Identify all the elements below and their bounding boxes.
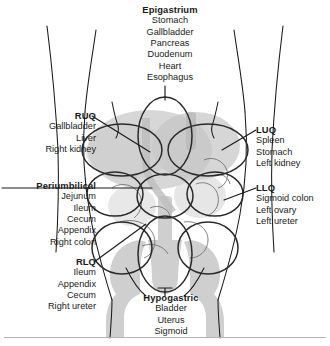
label-luq: LUQ Spleen Stomach Left kidney <box>256 124 330 169</box>
label-periumbilical-item: Jejunum <box>2 191 96 202</box>
label-rlq-item: Appendix <box>8 279 96 290</box>
label-periumbilical-heading: Periumbilical <box>2 180 96 191</box>
bottom-divider <box>4 337 326 338</box>
label-epigastrium-item: Duodenum <box>120 49 220 60</box>
label-rlq-item: Ileum <box>8 267 96 278</box>
label-epigastrium-item: Pancreas <box>120 38 220 49</box>
label-luq-item: Stomach <box>256 147 330 158</box>
abdominal-regions-figure: Epigastrium Stomach Gallbladder Pancreas… <box>0 0 330 346</box>
label-luq-heading: LUQ <box>256 124 330 135</box>
label-ruq-item: Liver <box>4 133 96 144</box>
label-ruq-heading: RUQ <box>4 110 96 121</box>
label-llq-item: Sigmoid colon <box>256 193 330 204</box>
label-ruq-item: Gallbladder <box>4 121 96 132</box>
label-epigastrium-item: Gallbladder <box>120 27 220 38</box>
label-epigastrium-heading: Epigastrium <box>120 4 220 15</box>
label-periumbilical-item: Ileum <box>2 203 96 214</box>
label-periumbilical-item: Cecum <box>2 214 96 225</box>
label-hypogastric-item: Bladder <box>118 303 224 314</box>
label-llq-item: Left ureter <box>256 216 330 227</box>
label-luq-item: Left kidney <box>256 158 330 169</box>
label-hypogastric-item: Sigmoid <box>118 326 224 337</box>
label-periumbilical: Periumbilical Jejunum Ileum Cecum Append… <box>2 180 96 248</box>
label-llq-heading: LLQ <box>256 182 330 193</box>
label-hypogastric: Hypogastric Bladder Uterus Sigmoid <box>118 292 224 337</box>
label-epigastrium-item: Esophagus <box>120 72 220 83</box>
label-hypogastric-heading: Hypogastric <box>118 292 224 303</box>
label-periumbilical-item: Appendix <box>2 225 96 236</box>
label-rlq: RLQ Ileum Appendix Cecum Right ureter <box>8 256 96 313</box>
label-ruq-item: Right kidney <box>4 144 96 155</box>
label-llq: LLQ Sigmoid colon Left ovary Left ureter <box>256 182 330 227</box>
label-periumbilical-item: Right colon <box>2 237 96 248</box>
label-epigastrium-item: Heart <box>120 61 220 72</box>
label-llq-item: Left ovary <box>256 205 330 216</box>
label-luq-item: Spleen <box>256 135 330 146</box>
label-ruq: RUQ Gallbladder Liver Right kidney <box>4 110 96 155</box>
label-rlq-heading: RLQ <box>8 256 96 267</box>
label-epigastrium-item: Stomach <box>120 15 220 26</box>
label-rlq-item: Right ureter <box>8 301 96 312</box>
label-rlq-item: Cecum <box>8 290 96 301</box>
leader-llq <box>224 188 256 200</box>
label-hypogastric-item: Uterus <box>118 315 224 326</box>
label-epigastrium: Epigastrium Stomach Gallbladder Pancreas… <box>120 4 220 83</box>
